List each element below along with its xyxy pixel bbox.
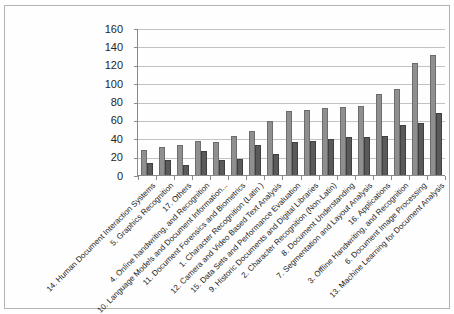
y-tick-mark xyxy=(134,103,138,104)
x-tick-mark xyxy=(301,176,302,180)
gridline-140 xyxy=(138,47,445,48)
y-tick-mark xyxy=(134,84,138,85)
y-tick-mark xyxy=(134,47,138,48)
x-tick-mark xyxy=(427,176,428,180)
bar-series2-15 xyxy=(400,125,406,176)
y-tick-label-80: 80 xyxy=(83,97,123,108)
figure-frame: 020406080100120140160 14. Human Document… xyxy=(4,5,450,309)
x-tick-mark xyxy=(228,176,229,180)
y-tick-label-20: 20 xyxy=(83,152,123,163)
x-tick-mark xyxy=(373,176,374,180)
bar-series2-10 xyxy=(310,141,316,176)
y-tick-label-160: 160 xyxy=(83,24,123,35)
bar-series2-14 xyxy=(382,136,388,176)
x-tick-mark xyxy=(156,176,157,180)
x-axis-line xyxy=(138,175,445,176)
bar-series2-8 xyxy=(273,154,279,176)
x-tick-mark xyxy=(210,176,211,180)
gridline-160 xyxy=(138,29,445,30)
bar-series2-6 xyxy=(237,159,243,176)
y-tick-mark xyxy=(134,139,138,140)
y-tick-label-140: 140 xyxy=(83,42,123,53)
y-tick-label-120: 120 xyxy=(83,60,123,71)
x-category-label-1: 14. Human Document Interaction Systems xyxy=(45,181,158,294)
y-tick-label-60: 60 xyxy=(83,115,123,126)
x-tick-mark xyxy=(192,176,193,180)
bar-series2-7 xyxy=(255,145,261,176)
bar-series2-9 xyxy=(292,142,298,176)
x-tick-mark xyxy=(445,176,446,180)
y-tick-label-100: 100 xyxy=(83,79,123,90)
x-tick-mark xyxy=(264,176,265,180)
x-tick-mark xyxy=(174,176,175,180)
bar-series2-5 xyxy=(219,160,225,176)
figure-canvas: 020406080100120140160 14. Human Document… xyxy=(0,0,454,314)
bar-series2-4 xyxy=(201,151,207,176)
y-tick-mark xyxy=(134,121,138,122)
y-tick-mark xyxy=(134,29,138,30)
bar-series2-13 xyxy=(364,137,370,176)
y-tick-label-0: 0 xyxy=(83,171,123,182)
gridline-120 xyxy=(138,66,445,67)
x-tick-mark xyxy=(337,176,338,180)
x-tick-mark xyxy=(246,176,247,180)
gridline-100 xyxy=(138,84,445,85)
y-tick-mark xyxy=(134,158,138,159)
bar-series2-2 xyxy=(165,160,171,176)
x-tick-mark xyxy=(282,176,283,180)
plot-area xyxy=(138,29,445,176)
bar-series2-16 xyxy=(418,123,424,176)
y-tick-label-40: 40 xyxy=(83,134,123,145)
x-tick-mark xyxy=(355,176,356,180)
x-tick-mark xyxy=(138,176,139,180)
x-tick-mark xyxy=(409,176,410,180)
bar-series2-17 xyxy=(436,113,442,176)
bar-series2-11 xyxy=(328,139,334,176)
x-tick-mark xyxy=(319,176,320,180)
bar-series2-12 xyxy=(346,137,352,176)
y-tick-mark xyxy=(134,66,138,67)
x-tick-mark xyxy=(391,176,392,180)
